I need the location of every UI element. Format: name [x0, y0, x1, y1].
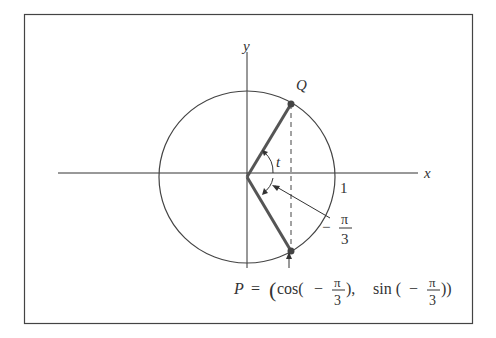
svg-text:−: − — [314, 280, 323, 297]
svg-text:3: 3 — [341, 231, 349, 247]
y-axis-label: y — [241, 38, 250, 54]
unit-circle-diagram: y x Q t 1 − π 3 P = ( cos( − π 3 ), sin … — [0, 0, 496, 338]
radius-to-Q — [247, 104, 291, 177]
angle-t-arc — [264, 152, 273, 173]
point-Q-label: Q — [296, 77, 307, 93]
svg-text:π: π — [429, 275, 436, 290]
svg-text:=: = — [251, 280, 260, 297]
x-axis-label: x — [423, 165, 431, 181]
point-P-equation: P = ( cos( − π 3 ), sin ( − π 3 )) — [233, 275, 452, 308]
tick-one-label: 1 — [340, 180, 348, 196]
svg-text:cos(: cos( — [277, 280, 304, 298]
svg-text:−: − — [409, 280, 418, 297]
svg-text:π: π — [341, 212, 348, 227]
svg-text:3: 3 — [429, 293, 436, 308]
svg-text:π: π — [334, 275, 341, 290]
point-Q-dot — [288, 101, 295, 108]
neg-pi-over-3-label: − π 3 — [322, 212, 352, 247]
pointer-line — [275, 186, 330, 218]
svg-text:P: P — [233, 280, 244, 297]
svg-text:(: ( — [269, 277, 276, 302]
figure-frame — [25, 15, 473, 324]
svg-text:),: ), — [346, 280, 355, 298]
angle-t-label: t — [276, 154, 281, 170]
svg-text:3: 3 — [334, 293, 341, 308]
svg-text:)): )) — [441, 280, 452, 298]
svg-text:−: − — [322, 219, 330, 235]
pointer-arrow-icon — [272, 185, 280, 191]
svg-text:sin (: sin ( — [373, 280, 401, 298]
